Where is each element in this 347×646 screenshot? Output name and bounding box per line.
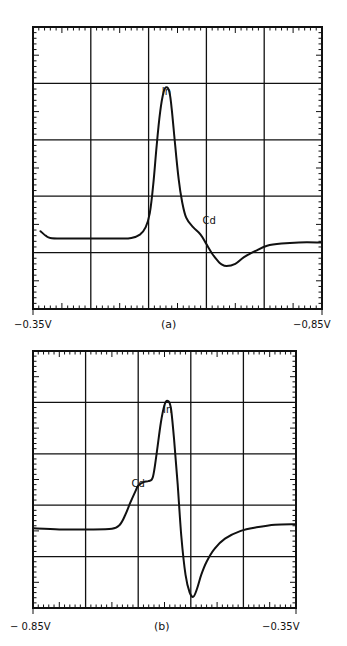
x-end-label-b: −0.35V: [262, 621, 300, 632]
minor-ticks-b: [33, 351, 296, 608]
annotation-cd-a: Cd: [203, 215, 216, 226]
panel-a: In Cd −0.35V −0,85V (a): [14, 27, 331, 331]
annotation-in-a: In: [162, 86, 171, 97]
annotation-in-b: In: [163, 404, 172, 415]
plot-frame-b: [33, 351, 296, 608]
series-line-a: [41, 87, 322, 266]
panel-b: In Cd − 0.85V −0.35V (b): [10, 351, 300, 633]
caption-b: (b): [154, 620, 170, 633]
caption-a: (a): [161, 318, 176, 331]
x-start-label-b: − 0.85V: [10, 621, 51, 632]
x-start-label-a: −0.35V: [14, 319, 52, 330]
x-end-label-a: −0,85V: [293, 319, 331, 330]
annotation-cd-b: Cd: [132, 478, 145, 489]
polarogram-figure: In Cd −0.35V −0,85V (a) In Cd − 0.85V −0…: [0, 0, 347, 646]
grid-b: [33, 351, 296, 608]
series-line-b: [34, 401, 296, 597]
